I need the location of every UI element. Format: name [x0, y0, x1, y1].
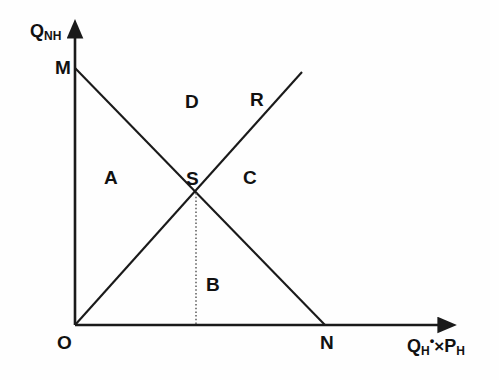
x-axis-label-p-subscript: H	[456, 344, 465, 358]
y-axis-label-q: Q	[30, 21, 44, 41]
point-label-r: R	[250, 90, 264, 109]
region-label-b: B	[206, 275, 220, 294]
y-axis-label: QNH	[30, 22, 61, 40]
x-axis-label-p: P	[444, 336, 456, 356]
demand-line-mn	[75, 68, 325, 325]
x-axis-label-times: ×	[434, 337, 444, 356]
point-label-s: S	[186, 169, 199, 188]
y-axis-label-subscript: NH	[44, 29, 61, 43]
x-axis-label: QH•×PH	[407, 337, 465, 355]
diagram-figure: QNH QH•×PH M O N S R A B C D	[0, 0, 499, 380]
region-label-a: A	[104, 168, 118, 187]
point-label-m: M	[55, 58, 71, 77]
point-label-n: N	[320, 333, 334, 352]
point-label-o: O	[57, 333, 72, 352]
x-axis-label-star: •	[430, 333, 435, 348]
region-label-d: D	[185, 92, 199, 111]
region-label-c: C	[243, 168, 257, 187]
x-axis-label-q-subscript: H	[421, 344, 430, 358]
diagram-canvas	[0, 0, 499, 380]
x-axis-label-q: Q	[407, 336, 421, 356]
